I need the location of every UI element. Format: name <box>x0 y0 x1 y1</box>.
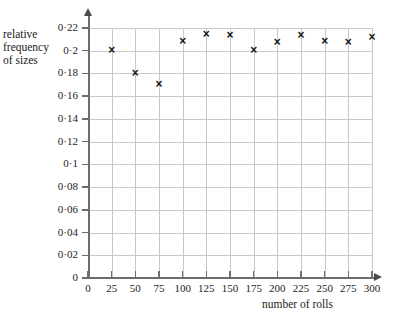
gridline-vertical <box>277 28 278 278</box>
data-point-marker <box>249 46 258 55</box>
x-axis-line <box>88 277 376 279</box>
x-axis-tick <box>348 271 349 278</box>
y-axis-tick <box>82 186 89 187</box>
gridline-vertical <box>325 28 326 278</box>
x-axis-tick <box>87 271 88 278</box>
y-axis-tick-label: 0·16 <box>0 89 78 101</box>
x-axis-tick-label: 300 <box>352 282 392 294</box>
y-axis-tick <box>82 50 89 51</box>
x-axis-tick <box>277 271 278 278</box>
y-axis-tick <box>82 164 89 165</box>
y-axis-tick-label: 0 <box>0 271 78 283</box>
x-axis-tick <box>182 271 183 278</box>
y-axis-tick <box>82 27 89 28</box>
gridline-vertical <box>206 28 207 278</box>
x-axis-tick <box>206 271 207 278</box>
y-axis-tick <box>82 209 89 210</box>
data-point-marker <box>178 37 187 46</box>
x-axis-title: number of rolls <box>262 298 333 310</box>
gridline-vertical <box>183 28 184 278</box>
x-axis-tick <box>111 271 112 278</box>
gridline-vertical <box>254 28 255 278</box>
y-axis-arrowhead-icon <box>84 8 92 16</box>
x-axis-tick <box>371 271 372 278</box>
y-axis-tick-label: 0·2 <box>0 44 78 56</box>
data-point-marker <box>344 38 353 47</box>
gridline-vertical <box>301 28 302 278</box>
y-axis-tick-label: 0·06 <box>0 203 78 215</box>
data-point-marker <box>273 38 282 47</box>
y-axis-tick-label: 0·08 <box>0 180 78 192</box>
y-axis-tick-label: 0·18 <box>0 66 78 78</box>
scatter-chart: relative frequency of sizes number of ro… <box>0 0 398 319</box>
data-point-marker <box>297 31 306 40</box>
x-axis-tick <box>300 271 301 278</box>
x-axis-tick <box>158 271 159 278</box>
x-axis-tick <box>229 271 230 278</box>
data-point-marker <box>226 31 235 40</box>
data-point-marker <box>155 80 164 89</box>
x-axis-tick <box>253 271 254 278</box>
gridline-vertical <box>159 28 160 278</box>
x-axis-tick <box>135 271 136 278</box>
x-axis-arrowhead-icon <box>374 273 382 281</box>
y-axis-tick <box>82 141 89 142</box>
y-axis-tick <box>82 255 89 256</box>
gridline-vertical <box>230 28 231 278</box>
y-axis-tick-label: 0·04 <box>0 226 78 238</box>
gridline-vertical <box>112 28 113 278</box>
data-point-marker <box>131 69 140 78</box>
data-point-marker <box>107 46 116 55</box>
y-axis-tick <box>82 232 89 233</box>
data-point-marker <box>320 37 329 46</box>
gridline-vertical <box>372 28 373 278</box>
y-axis-tick <box>82 118 89 119</box>
y-axis-tick-label: 0·22 <box>0 21 78 33</box>
plot-area <box>88 28 372 278</box>
y-axis-tick <box>82 95 89 96</box>
y-axis-tick-label: 0·12 <box>0 135 78 147</box>
data-point-marker <box>202 30 211 39</box>
y-axis-tick-label: 0·14 <box>0 112 78 124</box>
y-axis-line <box>88 14 90 278</box>
y-axis-tick-label: 0·02 <box>0 248 78 260</box>
data-point-marker <box>368 33 377 42</box>
x-axis-tick <box>324 271 325 278</box>
gridline-vertical <box>348 28 349 278</box>
y-axis-tick <box>82 73 89 74</box>
y-axis-tick-label: 0·1 <box>0 157 78 169</box>
